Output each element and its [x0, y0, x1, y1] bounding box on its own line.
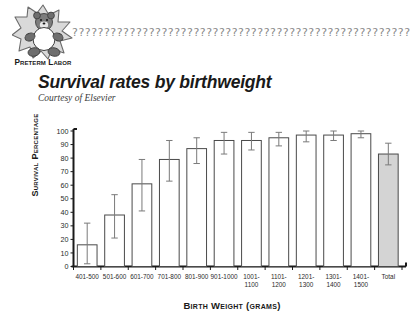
x-tick-label: 501-600	[103, 273, 127, 280]
bar-series	[77, 134, 398, 267]
bar	[214, 140, 234, 266]
svg-text:30: 30	[61, 221, 69, 230]
x-tick-label: 1001-	[243, 273, 259, 280]
svg-text:10: 10	[61, 249, 69, 258]
bar	[269, 138, 289, 267]
bar-chart-svg: 0102030405060708090100 401-500501-600601…	[0, 0, 417, 327]
x-tick-label: 1201-	[298, 273, 314, 280]
x-tick-label: 1301-	[325, 273, 341, 280]
x-tick-label: 1401-	[353, 273, 369, 280]
svg-text:60: 60	[61, 181, 69, 190]
bar	[351, 134, 371, 267]
x-tick-label: Total	[382, 273, 396, 280]
svg-text:40: 40	[61, 208, 69, 217]
x-tick-label: 801-900	[185, 273, 209, 280]
chart-plot-area: Survival Percentage Birth Weight (grams)…	[0, 0, 417, 327]
x-tick-label: 1100	[245, 281, 259, 288]
x-tick-label: 1200	[272, 281, 287, 288]
svg-text:90: 90	[61, 140, 69, 149]
x-axis-tick-labels: 401-500501-600601-700701-800801-900901-1…	[74, 267, 403, 288]
svg-text:20: 20	[61, 235, 69, 244]
svg-text:80: 80	[61, 154, 69, 163]
x-tick-label: 601-700	[130, 273, 154, 280]
x-tick-label: 701-800	[158, 273, 182, 280]
x-tick-label: 1300	[299, 281, 314, 288]
x-tick-label: 901-1000	[211, 273, 238, 280]
bar	[378, 154, 398, 266]
bar	[187, 149, 207, 267]
bar	[324, 135, 344, 266]
svg-text:70: 70	[61, 167, 69, 176]
x-tick-label: 1500	[354, 281, 369, 288]
error-bars	[84, 131, 392, 264]
bar	[242, 140, 262, 266]
svg-text:100: 100	[57, 127, 69, 136]
x-tick-label: 401-500	[75, 273, 99, 280]
x-tick-label: 1101-	[271, 273, 287, 280]
y-axis-ticks: 0102030405060708090100	[57, 127, 74, 272]
svg-text:0: 0	[65, 262, 69, 271]
svg-text:50: 50	[61, 194, 69, 203]
bar	[296, 135, 316, 266]
x-tick-label: 1400	[326, 281, 341, 288]
